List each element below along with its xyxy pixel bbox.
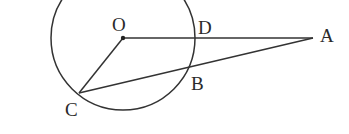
label-b: B: [191, 73, 204, 94]
label-d: D: [198, 17, 212, 38]
geometry-diagram: O D A B C: [0, 0, 349, 134]
label-a: A: [320, 25, 334, 46]
label-o: O: [112, 14, 126, 35]
label-c: C: [65, 99, 78, 120]
center-dot: [121, 36, 125, 40]
